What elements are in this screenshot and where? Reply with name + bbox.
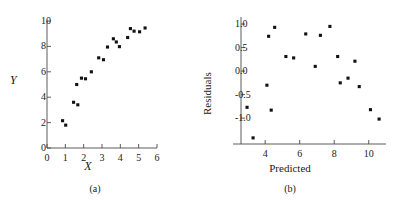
data-point-marker [102, 58, 105, 61]
data-point-marker [118, 45, 121, 48]
data-point-marker [339, 81, 342, 84]
panel-a-y-axis-title: Y [10, 75, 17, 86]
data-point-marker [133, 30, 136, 33]
data-point-marker [144, 26, 147, 29]
data-point-marker [97, 56, 100, 59]
panel-b-x-tick-label: 8 [332, 149, 337, 159]
data-point-marker [75, 83, 78, 86]
panel-a-x-tick-label: 0 [45, 153, 50, 163]
panel-b-x-tick-label: 10 [364, 149, 374, 159]
data-point-marker [115, 40, 118, 43]
data-point-marker [319, 34, 322, 37]
data-point-marker [61, 119, 64, 122]
data-point-marker [245, 106, 248, 109]
data-point-marker [378, 118, 381, 121]
panel-b-scatterplot: Predicted Residuals (b) -1.0-0.50.00.51.… [190, 0, 395, 201]
data-point-marker [106, 45, 109, 48]
panel-b-x-tick-label: 6 [297, 149, 302, 159]
panel-a-x-tick-label: 3 [100, 153, 105, 163]
panel-b-x-axis-title: Predicted [269, 163, 311, 174]
figure-container: X Y (a) 02468100123456 Predicted Residua… [0, 0, 395, 201]
data-point-marker [284, 55, 287, 58]
data-point-marker [328, 25, 331, 28]
data-point-marker [129, 27, 132, 30]
data-point-marker [273, 26, 276, 29]
panel-b-y-axis-title: Residuals [202, 72, 213, 115]
data-point-marker [112, 37, 115, 40]
data-point-marker [126, 36, 129, 39]
panel-a-scatterplot: X Y (a) 02468100123456 [0, 0, 200, 201]
data-point-marker [353, 60, 356, 63]
data-point-marker [64, 124, 67, 127]
data-point-marker [90, 70, 93, 73]
data-point-marker [358, 85, 361, 88]
panel-a-plot-area [0, 0, 200, 201]
data-point-marker [80, 77, 83, 80]
panel-a-x-tick-label: 2 [81, 153, 86, 163]
data-point-marker [76, 103, 79, 106]
panel-a-x-tick-label: 4 [118, 153, 123, 163]
panel-b-caption: (b) [284, 184, 296, 194]
data-point-marker [346, 77, 349, 80]
data-point-marker [304, 32, 307, 35]
panel-b-x-tick-label: 4 [263, 149, 268, 159]
data-point-marker [72, 101, 75, 104]
panel-a-caption: (a) [89, 184, 100, 194]
data-point-marker [270, 109, 273, 112]
panel-a-x-tick-label: 1 [63, 153, 68, 163]
data-point-marker [369, 108, 372, 111]
data-point-marker [84, 77, 87, 80]
data-point-marker [252, 136, 255, 139]
panel-a-x-tick-label: 6 [155, 153, 160, 163]
data-point-marker [265, 84, 268, 87]
data-point-marker [138, 30, 141, 33]
data-point-marker [292, 56, 295, 59]
panel-a-x-tick-label: 5 [136, 153, 141, 163]
data-point-marker [314, 65, 317, 68]
data-point-marker [267, 35, 270, 38]
data-point-marker [336, 55, 339, 58]
